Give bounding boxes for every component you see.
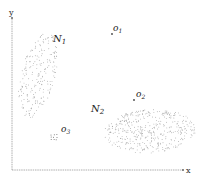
cluster-o3	[51, 134, 58, 140]
cluster-n2	[105, 109, 196, 153]
x-axis-label: x	[186, 166, 191, 175]
cluster-layer	[18, 34, 195, 153]
y-axis-arrow-icon	[11, 17, 13, 19]
outlier-layer	[111, 33, 135, 101]
outlier-o1-point	[111, 33, 113, 35]
label-layer: N1 N2 o1 o2 o3	[52, 23, 145, 135]
outlier-o2-label: o2	[136, 89, 145, 100]
scatter-diagram: x y N1 N2 o1 o2 o3	[0, 0, 203, 186]
x-axis-arrow-icon	[182, 169, 184, 171]
outlier-o1-label: o1	[113, 23, 122, 34]
outlier-o2-point	[133, 99, 135, 101]
cluster-o3-label: o3	[61, 124, 70, 135]
cluster-n1-label: N1	[52, 33, 66, 46]
cluster-n1	[18, 34, 57, 118]
y-axis-label: y	[8, 8, 14, 17]
axes: x y	[8, 8, 191, 175]
cluster-n2-label: N2	[90, 103, 105, 116]
